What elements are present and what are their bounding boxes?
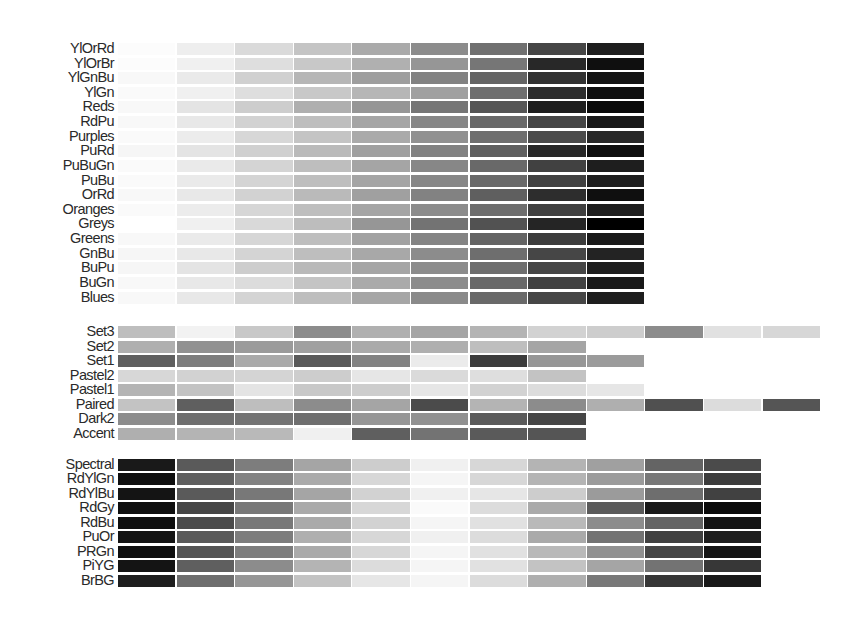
color-swatch bbox=[528, 517, 585, 529]
color-swatch bbox=[352, 341, 409, 353]
color-swatch bbox=[118, 145, 175, 157]
color-swatch bbox=[177, 43, 234, 55]
color-swatch bbox=[528, 355, 585, 367]
color-swatch bbox=[352, 262, 409, 274]
color-swatch bbox=[528, 262, 585, 274]
color-swatch bbox=[294, 233, 351, 245]
color-swatch bbox=[235, 502, 292, 514]
color-swatch bbox=[528, 292, 585, 304]
color-swatch bbox=[118, 560, 175, 572]
color-swatch bbox=[118, 131, 175, 143]
palette-label: Greys bbox=[78, 217, 114, 230]
color-swatch bbox=[235, 218, 292, 230]
color-swatch bbox=[235, 459, 292, 471]
color-swatch bbox=[118, 72, 175, 84]
color-swatch bbox=[411, 218, 468, 230]
color-swatch bbox=[470, 204, 527, 216]
color-swatch bbox=[587, 175, 644, 187]
color-swatch bbox=[177, 384, 234, 396]
color-swatch bbox=[411, 575, 468, 587]
color-swatch bbox=[235, 131, 292, 143]
color-swatch bbox=[118, 575, 175, 587]
color-swatch bbox=[704, 560, 761, 572]
color-swatch bbox=[235, 175, 292, 187]
color-swatch bbox=[177, 473, 234, 485]
color-swatch bbox=[352, 473, 409, 485]
color-swatch bbox=[294, 502, 351, 514]
color-swatch bbox=[587, 326, 644, 338]
palette-label: YlOrRd bbox=[70, 42, 114, 55]
color-swatch bbox=[118, 473, 175, 485]
color-swatch bbox=[352, 326, 409, 338]
palette-label: Blues bbox=[81, 291, 114, 304]
color-swatch bbox=[411, 428, 468, 440]
color-swatch bbox=[235, 488, 292, 500]
color-swatch bbox=[411, 262, 468, 274]
color-swatch bbox=[763, 326, 820, 338]
color-swatch bbox=[470, 131, 527, 143]
color-swatch bbox=[528, 546, 585, 558]
color-swatch bbox=[411, 473, 468, 485]
color-swatch bbox=[411, 370, 468, 382]
palette-label: Greens bbox=[70, 232, 114, 245]
color-swatch bbox=[177, 531, 234, 543]
color-swatch bbox=[352, 370, 409, 382]
color-swatch bbox=[587, 277, 644, 289]
color-swatch bbox=[470, 459, 527, 471]
color-swatch bbox=[352, 189, 409, 201]
color-swatch bbox=[118, 459, 175, 471]
color-swatch bbox=[470, 488, 527, 500]
color-swatch bbox=[645, 488, 702, 500]
palette-label: RdPu bbox=[80, 115, 114, 128]
color-swatch bbox=[177, 189, 234, 201]
color-swatch bbox=[411, 413, 468, 425]
color-swatch bbox=[411, 58, 468, 70]
color-swatch bbox=[235, 145, 292, 157]
color-swatch bbox=[587, 502, 644, 514]
color-swatch bbox=[118, 384, 175, 396]
color-swatch bbox=[528, 87, 585, 99]
color-swatch bbox=[294, 428, 351, 440]
color-swatch bbox=[235, 326, 292, 338]
color-swatch bbox=[645, 560, 702, 572]
color-swatch bbox=[645, 575, 702, 587]
color-swatch bbox=[411, 160, 468, 172]
palette-label: GnBu bbox=[79, 247, 114, 260]
color-swatch bbox=[411, 292, 468, 304]
color-swatch bbox=[235, 204, 292, 216]
color-swatch bbox=[294, 384, 351, 396]
color-swatch bbox=[352, 248, 409, 260]
color-swatch bbox=[118, 488, 175, 500]
color-swatch bbox=[587, 355, 644, 367]
color-swatch bbox=[294, 131, 351, 143]
color-swatch bbox=[470, 233, 527, 245]
color-swatch bbox=[470, 517, 527, 529]
color-swatch bbox=[587, 262, 644, 274]
color-swatch bbox=[470, 355, 527, 367]
color-swatch bbox=[118, 116, 175, 128]
color-swatch bbox=[235, 248, 292, 260]
color-swatch bbox=[118, 517, 175, 529]
color-swatch bbox=[470, 473, 527, 485]
color-swatch bbox=[411, 277, 468, 289]
color-swatch bbox=[411, 488, 468, 500]
palette-label: RdBu bbox=[80, 516, 114, 529]
color-swatch bbox=[294, 292, 351, 304]
color-swatch bbox=[645, 546, 702, 558]
color-swatch bbox=[587, 473, 644, 485]
color-swatch bbox=[352, 204, 409, 216]
color-swatch bbox=[587, 384, 644, 396]
color-swatch bbox=[645, 531, 702, 543]
color-swatch bbox=[528, 459, 585, 471]
color-swatch bbox=[118, 101, 175, 113]
color-swatch bbox=[235, 355, 292, 367]
color-swatch bbox=[177, 413, 234, 425]
color-swatch bbox=[235, 116, 292, 128]
color-swatch bbox=[587, 101, 644, 113]
color-swatch bbox=[587, 43, 644, 55]
color-swatch bbox=[411, 116, 468, 128]
color-swatch bbox=[587, 517, 644, 529]
color-swatch bbox=[704, 502, 761, 514]
color-swatch bbox=[294, 101, 351, 113]
color-swatch bbox=[294, 399, 351, 411]
